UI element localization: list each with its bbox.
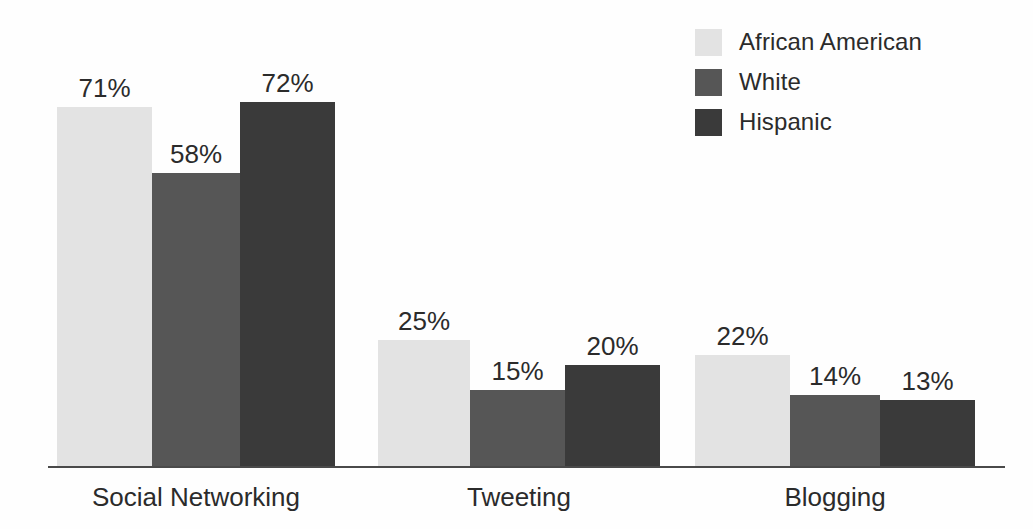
legend-item-african-american[interactable]: African American (695, 22, 1015, 62)
bar-rect (470, 390, 565, 466)
legend-item-label: White (739, 70, 801, 94)
legend-item-white[interactable]: White (695, 62, 1015, 102)
bar-rect (240, 102, 335, 466)
bar-rect (880, 400, 975, 466)
bar-value-label: 72% (240, 70, 335, 96)
bar-value-label: 58% (152, 141, 240, 167)
legend-swatch-icon (695, 109, 722, 136)
bar-chart: 71% 58% 72% 25% 15% 20% (0, 0, 1033, 529)
legend-item-label: African American (739, 30, 922, 54)
bar-social-networking-african-american[interactable]: 71% (57, 62, 152, 466)
x-axis-line (48, 466, 1005, 468)
bar-rect (378, 340, 470, 466)
bar-rect (695, 355, 790, 466)
page-edge-marginalia (1005, 420, 1031, 506)
bar-rect (152, 173, 240, 466)
bar-rect (565, 365, 660, 466)
legend-swatch-icon (695, 29, 722, 56)
bar-tweeting-hispanic[interactable]: 20% (565, 62, 660, 466)
bar-group-social-networking: 71% 58% 72% (57, 62, 335, 466)
bar-tweeting-african-american[interactable]: 25% (378, 62, 470, 466)
x-axis-label-tweeting: Tweeting (378, 481, 660, 514)
bar-social-networking-white[interactable]: 58% (152, 62, 240, 466)
bar-value-label: 71% (57, 75, 152, 101)
bar-value-label: 20% (565, 333, 660, 359)
bar-rect (790, 395, 880, 466)
legend-item-label: Hispanic (739, 110, 832, 134)
bar-value-label: 25% (378, 308, 470, 334)
bar-tweeting-white[interactable]: 15% (470, 62, 565, 466)
legend-swatch-icon (695, 69, 722, 96)
x-axis-label-social-networking: Social Networking (57, 481, 335, 514)
bar-rect (57, 107, 152, 466)
bar-value-label: 15% (470, 358, 565, 384)
bar-value-label: 14% (790, 363, 880, 389)
bar-social-networking-hispanic[interactable]: 72% (240, 62, 335, 466)
bar-value-label: 13% (880, 368, 975, 394)
legend-item-hispanic[interactable]: Hispanic (695, 102, 1015, 142)
bar-group-tweeting: 25% 15% 20% (378, 62, 660, 466)
legend: African American White Hispanic (695, 22, 1015, 142)
bar-value-label: 22% (695, 323, 790, 349)
x-axis-label-blogging: Blogging (695, 481, 975, 514)
